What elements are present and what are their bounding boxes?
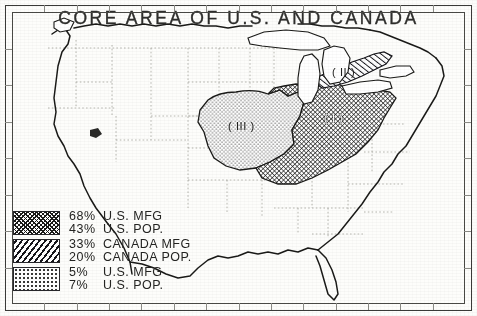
map-scan: ( I ) ( II ) ( III ) CORE AREA OF U.S. A…: [0, 0, 477, 316]
map-frame-inner: [12, 12, 465, 304]
